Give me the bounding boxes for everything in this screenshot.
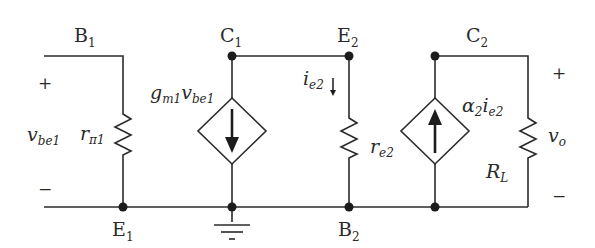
label-gm1-vbe1: gm1vbe1 [150, 81, 214, 106]
label-e1: E1 [112, 218, 134, 244]
label-rpi1: rπ1 [80, 122, 105, 147]
ie2-arrow [330, 78, 336, 96]
vo-minus-sign: − [552, 186, 566, 206]
label-c1: C1 [220, 24, 242, 50]
circuit-diagram: B1 C1 E2 C2 E1 B2 + vbe1 − rπ1 gm1vbe1 i… [0, 0, 595, 248]
alpha-current-source [401, 98, 469, 164]
label-b2: B2 [338, 218, 360, 244]
ground-icon [214, 225, 250, 239]
label-re2: re2 [370, 135, 394, 160]
label-alpha2-ie2: α2ie2 [462, 94, 503, 119]
label-c2: C2 [466, 24, 488, 50]
node-ground-dot [228, 203, 237, 212]
label-rl: RL [485, 160, 508, 185]
node-e1-dot [119, 203, 128, 212]
node-c2-dot [431, 52, 440, 61]
resistor-rpi1 [115, 110, 131, 157]
junction-dots [119, 52, 440, 212]
vbe1-plus-sign: + [38, 73, 52, 93]
resistor-re2 [341, 115, 357, 160]
label-ie2: ie2 [303, 67, 324, 92]
label-e2: E2 [337, 24, 359, 50]
label-vbe1: vbe1 [27, 123, 60, 148]
label-b1: B1 [74, 24, 96, 50]
node-c1-dot [228, 52, 237, 61]
resistor-rl [520, 115, 536, 160]
vbe1-minus-sign: − [38, 179, 52, 199]
wire-b1 [44, 56, 123, 110]
node-b2-dot [345, 203, 354, 212]
gm-current-source [198, 98, 266, 164]
node-alpha-bottom-dot [431, 203, 440, 212]
vo-plus-sign: + [552, 63, 566, 83]
label-vo: vo [548, 124, 566, 149]
node-e2-dot [345, 52, 354, 61]
